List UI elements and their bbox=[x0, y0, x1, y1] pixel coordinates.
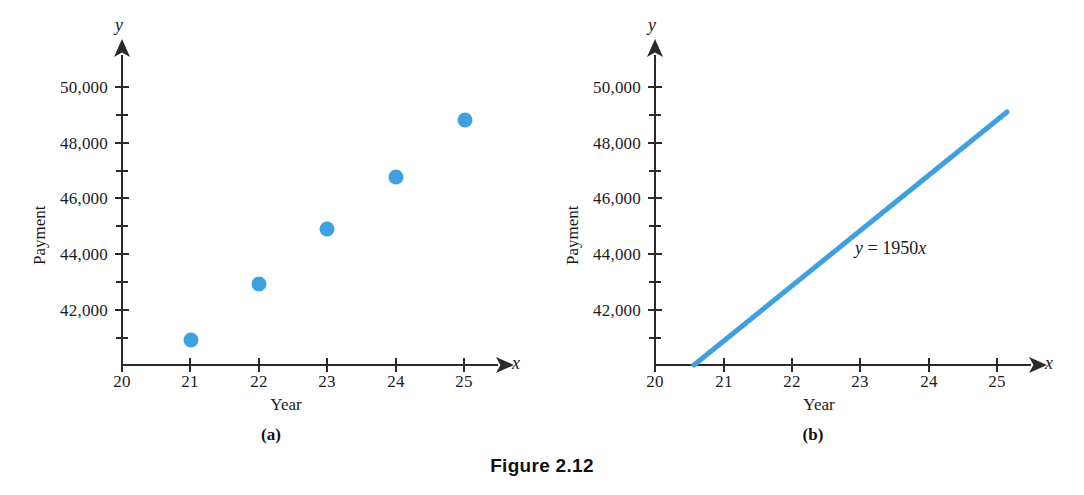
data-point bbox=[389, 170, 404, 185]
x-axis-variable-label: x bbox=[1045, 353, 1053, 374]
y-axis-variable-label: y bbox=[115, 15, 123, 36]
x-tick-label-20: 20 bbox=[104, 372, 140, 392]
y-tick-label-42000: 42,000 bbox=[42, 301, 108, 321]
equation-variable-y: y bbox=[855, 238, 863, 258]
x-tick-label-20: 20 bbox=[637, 372, 673, 392]
y-tick-label-42000: 42,000 bbox=[575, 301, 641, 321]
y-tick-label-44000: 44,000 bbox=[42, 245, 108, 265]
y-tick-label-48000: 48,000 bbox=[575, 134, 641, 154]
x-axis-variable-label: x bbox=[512, 353, 520, 374]
chart-panel-b: 50,000 48,000 46,000 44,000 42,000 20 21… bbox=[542, 0, 1084, 460]
equation-body: = 1950 bbox=[863, 238, 918, 258]
x-tick-label-25: 25 bbox=[979, 372, 1015, 392]
data-point bbox=[252, 277, 267, 292]
y-tick-label-46000: 46,000 bbox=[42, 189, 108, 209]
equation-variable-x: x bbox=[918, 238, 926, 258]
x-tick-label-21: 21 bbox=[172, 372, 208, 392]
y-axis-title: Payment bbox=[30, 206, 50, 266]
x-tick-label-24: 24 bbox=[911, 372, 947, 392]
x-tick-label-23: 23 bbox=[842, 372, 878, 392]
x-tick-label-23: 23 bbox=[309, 372, 345, 392]
y-tick-label-50000: 50,000 bbox=[575, 78, 641, 98]
x-tick-label-24: 24 bbox=[378, 372, 414, 392]
y-tick-label-48000: 48,000 bbox=[42, 134, 108, 154]
data-point bbox=[320, 222, 335, 237]
y-axis-variable-label: y bbox=[648, 15, 656, 36]
scatter-points bbox=[184, 113, 473, 348]
x-tick-label-25: 25 bbox=[446, 372, 482, 392]
panel-caption-b: (b) bbox=[542, 425, 1084, 445]
y-axis-title: Payment bbox=[563, 206, 583, 266]
x-axis-title: Year bbox=[241, 395, 331, 415]
x-tick-label-21: 21 bbox=[706, 372, 742, 392]
x-axis-title: Year bbox=[774, 395, 864, 415]
y-tick-label-44000: 44,000 bbox=[575, 245, 641, 265]
figure-caption: Figure 2.12 bbox=[0, 455, 1084, 477]
panel-caption-a: (a) bbox=[0, 425, 542, 445]
x-tick-label-22: 22 bbox=[774, 372, 810, 392]
y-tick-label-46000: 46,000 bbox=[575, 189, 641, 209]
regression-line bbox=[694, 112, 1007, 365]
data-point bbox=[184, 333, 199, 348]
y-tick-label-50000: 50,000 bbox=[42, 78, 108, 98]
equation-annotation: y = 1950x bbox=[855, 238, 926, 259]
x-tick-label-22: 22 bbox=[241, 372, 277, 392]
figure-2-12: 50,000 48,000 46,000 44,000 42,000 20 21… bbox=[0, 0, 1084, 495]
data-point bbox=[458, 113, 473, 128]
chart-panel-a: 50,000 48,000 46,000 44,000 42,000 20 21… bbox=[0, 0, 542, 460]
